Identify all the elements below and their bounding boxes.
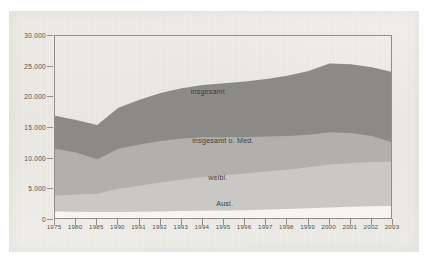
x-axis-label: 1985 <box>89 223 104 230</box>
x-axis-label: 1995 <box>216 223 231 230</box>
y-axis-tick <box>47 96 53 97</box>
y-axis-tick <box>47 35 53 36</box>
x-axis-label: 1980 <box>68 223 83 230</box>
x-axis-label: 2001 <box>343 223 358 230</box>
y-axis-tick <box>47 219 53 220</box>
y-axis-tick <box>47 158 53 159</box>
x-axis-label: 2000 <box>321 223 336 230</box>
x-axis-label: 1993 <box>174 223 189 230</box>
chart-figure: 05.00010.00015.00020.00025.00030.000 197… <box>0 0 428 263</box>
x-axis-label: 1991 <box>131 223 146 230</box>
series-inline-label: weibl. <box>208 174 227 182</box>
x-axis-label: 2003 <box>385 223 400 230</box>
x-axis-label: 2002 <box>364 223 379 230</box>
y-axis-tick <box>47 188 53 189</box>
x-axis-label: 1996 <box>237 223 252 230</box>
x-axis: 1975198019851990199119921993199419951996… <box>0 0 428 263</box>
x-axis-label: 1975 <box>47 223 62 230</box>
x-axis-label: 1992 <box>152 223 167 230</box>
y-axis-tick <box>47 66 53 67</box>
x-axis-label: 1998 <box>279 223 294 230</box>
x-axis-label: 1994 <box>195 223 210 230</box>
series-inline-label: insgesamt o. Med. <box>192 137 253 145</box>
y-axis-tick <box>47 127 53 128</box>
x-axis-label: 1990 <box>110 223 125 230</box>
series-inline-label: Ausl. <box>216 200 233 208</box>
series-inline-label: insgesamt <box>191 88 225 96</box>
x-axis-label: 1999 <box>300 223 315 230</box>
x-axis-label: 1997 <box>258 223 273 230</box>
